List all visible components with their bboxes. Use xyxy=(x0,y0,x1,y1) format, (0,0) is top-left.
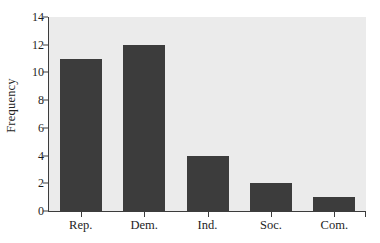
x-axis-tick-label: Ind. xyxy=(198,219,218,233)
x-axis-tick-mark xyxy=(208,212,209,217)
bar xyxy=(250,183,292,211)
bar xyxy=(187,156,229,211)
bar xyxy=(313,197,355,211)
x-axis-tick-label: Dem. xyxy=(130,219,157,233)
y-axis-tick-labels: 02468101214 xyxy=(22,17,44,211)
x-axis-tick-marks xyxy=(49,212,366,217)
bar xyxy=(123,45,165,211)
bar xyxy=(60,59,102,211)
x-axis-tick-label: Soc. xyxy=(260,219,282,233)
x-axis-tick-mark xyxy=(144,212,145,217)
x-axis-end-tick-mark xyxy=(365,212,366,217)
x-axis-tick-mark xyxy=(81,212,82,217)
x-axis-tick-mark xyxy=(334,212,335,217)
x-axis-tick-labels: Rep.Dem.Ind.Soc.Com. xyxy=(49,219,366,241)
bar-chart-figure: Frequency 02468101214 Rep.Dem.Ind.Soc.Co… xyxy=(0,0,380,243)
x-axis-tick-mark xyxy=(271,212,272,217)
y-axis-title: Frequency xyxy=(0,0,22,211)
y-axis-title-text: Frequency xyxy=(4,78,19,133)
plot-area xyxy=(49,17,366,211)
x-axis-tick-label: Com. xyxy=(321,219,348,233)
x-axis-tick-label: Rep. xyxy=(69,219,92,233)
